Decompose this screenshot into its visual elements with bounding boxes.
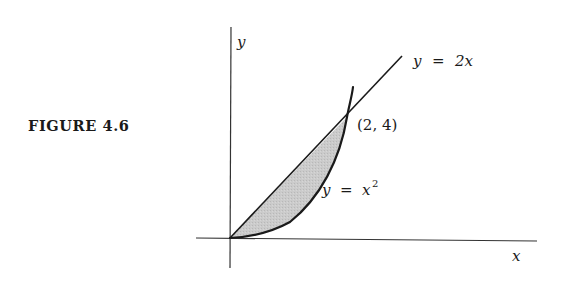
plot-area: y x y = 2x (2, 4) y = x 2	[0, 0, 567, 283]
x-axis-label: x	[512, 247, 521, 265]
x-axis	[196, 238, 537, 241]
parabola-label-equals: =	[340, 181, 353, 199]
line-label: y = 2x	[412, 52, 474, 70]
line-label-equals: =	[432, 52, 445, 70]
line-label-rhs: 2x	[454, 52, 474, 70]
parabola-label-var: y	[321, 181, 331, 199]
parabola-label: y = x 2	[321, 178, 378, 199]
parabola-label-exponent: 2	[372, 178, 378, 189]
y-axis	[230, 27, 231, 268]
intersection-label: (2, 4)	[357, 116, 397, 134]
line-label-var: y	[412, 52, 422, 70]
parabola-label-base: x	[362, 181, 371, 199]
y-axis-label: y	[236, 33, 246, 51]
line-y-equals-2x	[230, 56, 402, 238]
